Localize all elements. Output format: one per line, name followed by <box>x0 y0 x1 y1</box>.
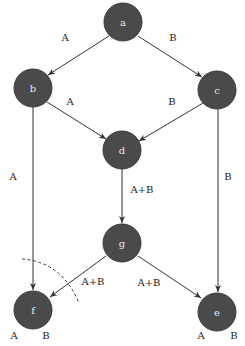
edge-label-b-d: A <box>65 96 74 107</box>
node-c-label: c <box>214 85 220 96</box>
node-g[interactable]: g <box>103 224 141 262</box>
node-a[interactable]: a <box>104 3 142 41</box>
node-c[interactable]: c <box>198 71 236 109</box>
node-d[interactable]: d <box>103 131 141 169</box>
edge-label-g-f: A+B <box>81 276 105 287</box>
node-f-annotation-b: B <box>42 330 49 341</box>
node-e-annotation-a: A <box>196 330 205 341</box>
edge-a-b <box>48 36 109 75</box>
edge-c-d <box>139 103 203 141</box>
edge-label-a-b: A <box>60 32 69 43</box>
edge-label-c-e: B <box>224 171 231 182</box>
node-e-label: e <box>214 307 220 318</box>
edge-label-a-c: B <box>169 32 176 43</box>
edge-label-g-e: A+B <box>137 277 161 288</box>
node-b[interactable]: b <box>14 69 52 107</box>
node-f[interactable]: f <box>14 291 52 329</box>
node-e-annotation-b: B <box>230 330 237 341</box>
node-f-annotation-a: A <box>9 330 18 341</box>
node-d-label: d <box>119 145 126 156</box>
edge-b-d <box>47 102 106 139</box>
graph-svg: a b c d g f e A B A B A B <box>0 0 245 346</box>
diagram-canvas: a b c d g f e A B A B A B <box>0 0 245 346</box>
edge-label-c-d: B <box>168 96 175 107</box>
node-a-label: a <box>120 17 126 28</box>
edge-label-d-g: A+B <box>130 184 154 195</box>
node-e[interactable]: e <box>198 293 236 331</box>
node-g-label: g <box>119 238 126 249</box>
node-b-label: b <box>30 83 36 94</box>
edge-label-b-f: A <box>8 171 17 182</box>
